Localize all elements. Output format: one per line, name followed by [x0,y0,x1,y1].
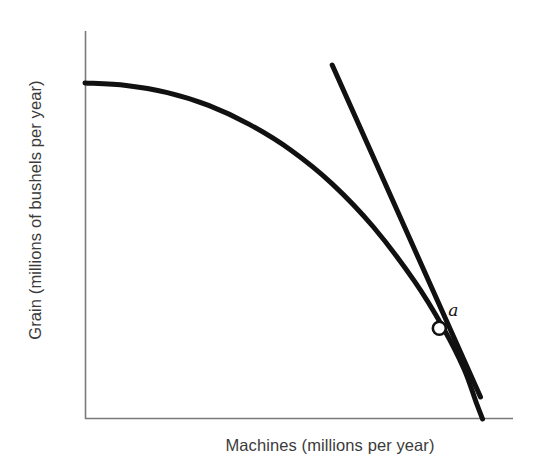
point-a-marker [433,322,446,335]
chart-screenshot: Grain (millions of bushels per year) Mac… [0,0,550,474]
y-axis-title: Grain (millions of bushels per year) [16,0,54,420]
x-axis-title: Machines (millions per year) [150,436,510,455]
chart-plot-area [0,0,550,474]
ppf-curve [85,83,483,419]
tangent-line [332,65,480,397]
point-a-label: a [448,300,458,320]
